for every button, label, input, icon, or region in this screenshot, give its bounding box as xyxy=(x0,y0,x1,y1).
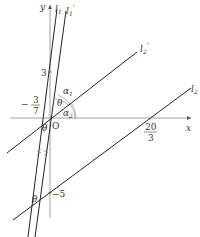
coordinate-diagram: y x O l1 l1′ l2′ l2 3 −5 − 3 7 20 3 α1 θ… xyxy=(0,0,200,237)
line-l2 xyxy=(13,88,191,220)
label-l1: l1 xyxy=(55,4,62,15)
y-tick-label-neg5: −5 xyxy=(52,189,66,199)
x-pos-denominator: 3 xyxy=(148,133,154,143)
theta-lower2-label: θ xyxy=(32,194,38,204)
x-pos-numerator: 20 xyxy=(145,122,157,132)
label-l1-prime: l1′ xyxy=(66,4,75,17)
y-axis-label: y xyxy=(39,2,46,12)
y-tick-label-3: 3 xyxy=(41,68,47,78)
alpha2-label: α2 xyxy=(63,108,73,119)
label-l2: l2 xyxy=(191,84,198,95)
x-neg-numerator: 3 xyxy=(33,95,39,105)
theta-lower-label: θ xyxy=(42,123,48,133)
label-l2-prime: l2′ xyxy=(140,42,149,55)
x-neg-denominator: 7 xyxy=(33,106,39,116)
theta-label: θ xyxy=(57,98,63,108)
line-l1-prime xyxy=(35,11,66,237)
origin-label: O xyxy=(52,121,59,131)
x-neg-sign: − xyxy=(21,99,29,109)
alpha1-label: α1 xyxy=(63,86,73,97)
x-axis-label: x xyxy=(186,123,191,133)
